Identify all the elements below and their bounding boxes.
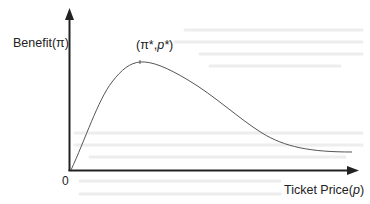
origin-label: 0 [62, 174, 69, 188]
x-axis-arrow-icon [347, 166, 359, 175]
x-axis-label-close: ) [360, 183, 364, 197]
x-axis-label: Ticket Price(p) [284, 183, 364, 197]
peak-label-p: p* [157, 38, 169, 52]
y-axis-label-text: Benefit( [13, 36, 56, 50]
peak-point-label: (π*,p*) [136, 38, 173, 52]
peak-label-close: ) [169, 38, 173, 52]
p-symbol: p [353, 183, 360, 197]
x-axis-label-text: Ticket Price( [284, 183, 353, 197]
peak-label-pi: π* [140, 38, 154, 52]
y-axis-arrow-icon [65, 8, 74, 20]
benefit-curve [71, 62, 352, 170]
benefit-price-diagram [0, 0, 370, 204]
y-axis-label-close: ) [65, 36, 69, 50]
pi-symbol: π [56, 36, 65, 50]
y-axis-label: Benefit(π) [13, 36, 69, 50]
